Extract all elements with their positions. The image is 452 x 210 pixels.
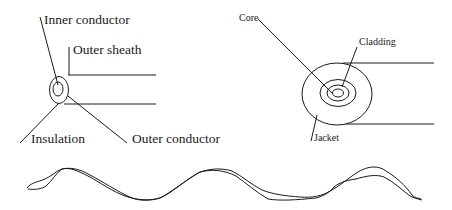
label-outer-conductor: Outer conductor: [132, 131, 221, 146]
label-jacket: Jacket: [314, 132, 339, 143]
fiber-jacket-ring: [302, 63, 372, 125]
label-inner-conductor: Inner conductor: [44, 12, 130, 27]
twisted-pair: [27, 167, 422, 200]
fiber-cladding-ring: [320, 80, 356, 107]
label-cladding: Cladding: [359, 36, 396, 47]
coaxial-cable: Inner conductor Outer sheath Insulation …: [20, 12, 221, 146]
optical-fiber: Core Cladding Jacket: [239, 12, 434, 143]
label-outer-sheath: Outer sheath: [73, 42, 142, 57]
label-core: Core: [239, 12, 259, 23]
twisted-pair-wire-b: [28, 168, 422, 200]
fiber-core-ring: [333, 89, 344, 97]
core-leader: [258, 19, 332, 93]
label-insulation: Insulation: [31, 131, 85, 146]
inner-conductor-leader: [40, 17, 58, 85]
cable-types-diagram: Inner conductor Outer sheath Insulation …: [0, 0, 452, 210]
coax-outer-ring: [50, 77, 69, 104]
fiber-buffer-ring: [327, 85, 349, 101]
